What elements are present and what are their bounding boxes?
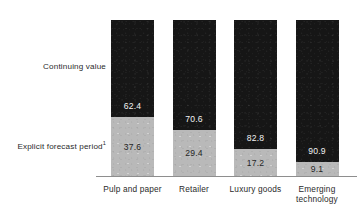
bar-segment-continuing-value: 70.6 [173, 20, 216, 130]
bar-value-explicit-forecast-period: 9.1 [296, 164, 339, 174]
x-axis-tick-label-line: Luxury goods [230, 184, 282, 194]
bar-value-continuing-value: 90.9 [296, 146, 339, 156]
bar-group: 90.99.1 [296, 20, 339, 176]
plot-area: 62.437.6Pulp and paper70.629.4Retailer82… [0, 0, 364, 221]
bar-segment-explicit-forecast-period: 29.4 [173, 130, 216, 176]
x-axis-tick-label-line: Emerging [299, 184, 336, 194]
bar-value-explicit-forecast-period: 37.6 [111, 141, 154, 151]
bar-value-continuing-value: 70.6 [173, 114, 216, 124]
x-axis-line [96, 176, 357, 177]
bar-group: 62.437.6 [111, 20, 154, 176]
x-axis-tick-label-line: Retailer [179, 184, 209, 194]
bar-value-explicit-forecast-period: 29.4 [173, 148, 216, 158]
bar-segment-explicit-forecast-period: 17.2 [234, 149, 277, 176]
bar-segment-explicit-forecast-period: 9.1 [296, 162, 339, 176]
bar-value-explicit-forecast-period: 17.2 [234, 157, 277, 167]
x-axis-tick-label-line: technology [279, 194, 355, 204]
bar-segment-continuing-value: 62.4 [111, 20, 154, 117]
bar-group: 82.817.2 [234, 20, 277, 176]
bar-value-continuing-value: 62.4 [111, 101, 154, 111]
bar-segment-continuing-value: 82.8 [234, 20, 277, 149]
bar-group: 70.629.4 [173, 20, 216, 176]
bar-value-continuing-value: 82.8 [234, 133, 277, 143]
stacked-bar-chart: Continuing value Explicit forecast perio… [0, 0, 364, 221]
x-axis-tick-label: Emergingtechnology [279, 184, 355, 204]
bar-segment-continuing-value: 90.9 [296, 20, 339, 162]
x-axis-tick-label-line: Pulp and paper [103, 184, 162, 194]
bar-segment-explicit-forecast-period: 37.6 [111, 117, 154, 176]
